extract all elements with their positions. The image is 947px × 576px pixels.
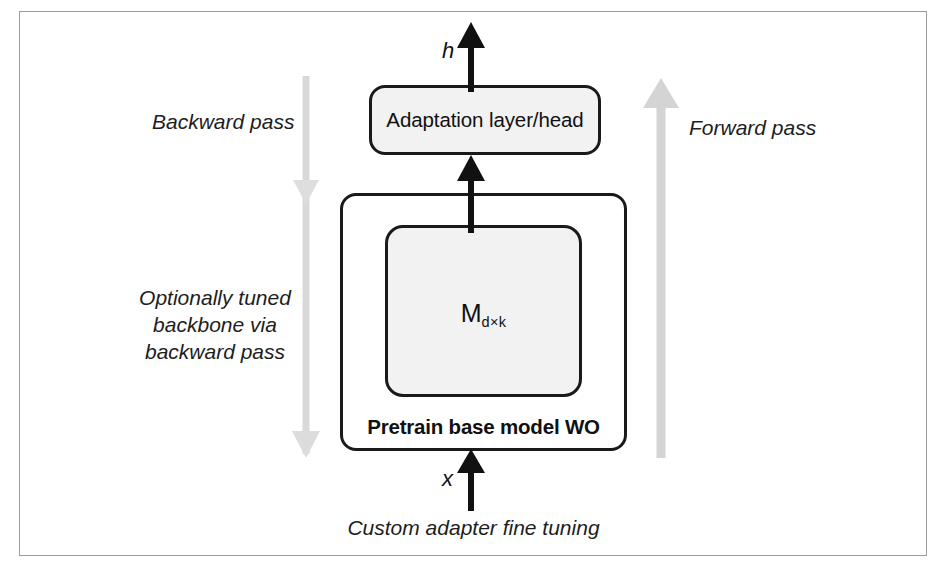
arrow-down-icon [286, 76, 326, 458]
arrow-up-icon [455, 22, 487, 92]
weight-matrix-subscript: d×k [482, 314, 507, 330]
adaptation-layer-label: Adaptation layer/head [386, 108, 583, 132]
arrow-up-icon [455, 449, 487, 511]
figure-root: h x Adaptation layer/head Pretrain base … [0, 0, 947, 576]
weight-matrix-box: Md×k [385, 225, 582, 397]
arrow-up-icon [455, 155, 487, 233]
backward-pass-label: Backward pass [152, 110, 294, 134]
pretrain-base-model-label: Pretrain base model WO [343, 415, 624, 439]
weight-matrix-label: Md×k [461, 301, 507, 326]
arrow-up-icon [641, 78, 681, 458]
optionally-tuned-backbone-label: Optionally tuned backbone via backward p… [125, 285, 305, 366]
weight-matrix-symbol: M [461, 299, 482, 327]
adaptation-layer-box: Adaptation layer/head [369, 85, 601, 155]
figure-caption: Custom adapter fine tuning [0, 516, 947, 540]
forward-pass-label: Forward pass [689, 116, 816, 140]
input-signal-label: x [442, 466, 453, 492]
output-signal-label: h [442, 38, 454, 64]
